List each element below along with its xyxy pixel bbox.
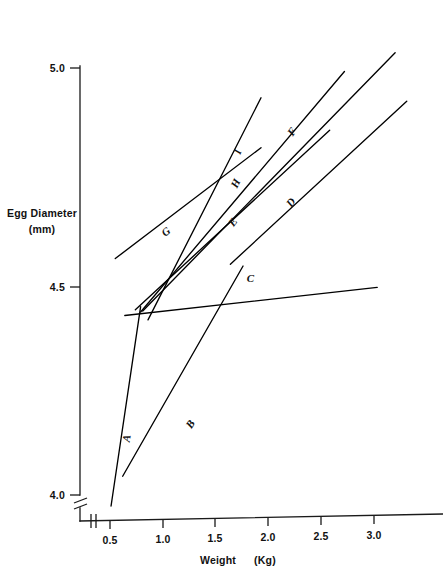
- series-label-a: A: [119, 434, 132, 444]
- y-axis-title-line1: Egg Diameter: [7, 207, 77, 219]
- x-tick-label-1-0: 1.0: [155, 533, 170, 545]
- series-line-h: [141, 72, 345, 312]
- x-tick-label-2-5: 2.5: [313, 530, 328, 542]
- y-tick-marks: [70, 68, 80, 495]
- x-tick-label-1-5: 1.5: [207, 532, 222, 544]
- series-label-c: C: [247, 272, 255, 284]
- series-label-g: G: [159, 224, 173, 238]
- x-axis-line: [80, 514, 443, 521]
- series-line-f: [143, 53, 395, 311]
- series-line-a: [111, 307, 141, 506]
- series-label-b: B: [183, 418, 198, 432]
- x-tick-label-3-0: 3.0: [366, 529, 381, 541]
- series-label-e: E: [225, 215, 240, 229]
- series-lines-group: [111, 53, 407, 506]
- series-labels-group: ABCDEFGHI: [119, 124, 299, 444]
- x-axis-title-unit: (Kg): [254, 554, 276, 566]
- series-line-d: [230, 101, 406, 264]
- x-axis-title-main: Weight: [200, 554, 236, 566]
- series-line-b: [123, 266, 243, 476]
- chart-figure: 5.0 4.5 4.0 Egg Diameter (mm) 0.5 1.0 1.…: [0, 0, 443, 572]
- series-label-h: H: [228, 176, 243, 190]
- y-tick-label-4-5: 4.5: [50, 281, 65, 293]
- x-tick-label-2-0: 2.0: [260, 531, 275, 543]
- series-label-d: D: [283, 195, 298, 209]
- x-tick-label-0-5: 0.5: [102, 534, 117, 546]
- y-axis-title-line2: (mm): [29, 223, 55, 235]
- egg-diameter-weight-plot: 5.0 4.5 4.0 Egg Diameter (mm) 0.5 1.0 1.…: [0, 0, 443, 572]
- y-tick-label-5-0: 5.0: [50, 62, 65, 74]
- y-tick-label-4-0: 4.0: [50, 489, 65, 501]
- series-label-f: F: [284, 124, 299, 138]
